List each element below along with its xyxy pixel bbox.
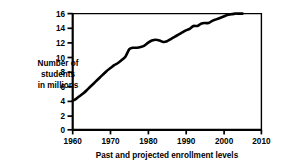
x-tick-label-2000: 2000 — [215, 137, 234, 146]
y-axis-title: Number of students in millions — [38, 59, 79, 90]
y-tick-label-0: 0 — [60, 126, 65, 135]
x-axis-title: Past and projected enrollment levels — [96, 151, 239, 160]
y-axis-title-line-2: students — [41, 70, 76, 79]
y-axis-title-line-3: in millions — [38, 81, 79, 90]
y-tick-label-4: 4 — [60, 97, 65, 106]
plot-background — [72, 13, 262, 130]
y-tick-label-12: 12 — [56, 39, 66, 48]
y-axis-title-line-1: Number of — [38, 59, 79, 68]
chart-figure: 16 14 12 10 8 6 4 2 0 1960 1970 1980 199… — [0, 0, 288, 166]
x-tick-labels: 1960 1970 1980 1990 2000 2010 — [64, 137, 271, 146]
x-tick-label-2010: 2010 — [252, 137, 271, 146]
line-chart: 16 14 12 10 8 6 4 2 0 1960 1970 1980 199… — [0, 0, 288, 166]
x-tick-label-1980: 1980 — [139, 137, 158, 146]
y-tick-label-14: 14 — [56, 24, 66, 33]
x-tick-label-1990: 1990 — [177, 137, 196, 146]
y-tick-label-2: 2 — [60, 112, 65, 121]
y-tick-label-16: 16 — [56, 10, 66, 19]
x-tick-label-1970: 1970 — [101, 137, 120, 146]
x-tick-label-1960: 1960 — [64, 137, 83, 146]
